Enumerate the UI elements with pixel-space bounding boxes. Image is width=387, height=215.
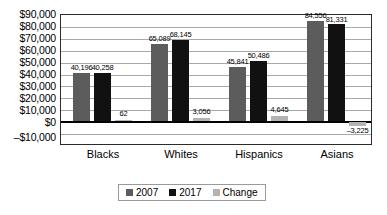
category-label-whites: Whites (146, 148, 216, 161)
y-tick-label: $80,000 (19, 21, 56, 31)
bar-value-label: 50,486 (242, 52, 275, 60)
bar-value-label: 4,645 (263, 106, 296, 114)
legend-item-2007[interactable]: 2007 (126, 187, 158, 198)
bar-hispanics-2007[interactable] (229, 67, 246, 122)
legend-label: 2007 (136, 187, 158, 198)
bar-whites-change[interactable] (193, 118, 210, 122)
legend-label: 2017 (179, 187, 201, 198)
y-tick-label: –$10,000 (14, 132, 56, 142)
bar-group-asians: 84,556 81,331 –3,225 (303, 15, 373, 144)
y-tick-label: $60,000 (19, 45, 56, 55)
legend-item-2017[interactable]: 2017 (169, 187, 201, 198)
y-tick-label: $20,000 (19, 93, 56, 103)
category-label-blacks: Blacks (68, 148, 138, 161)
plot-wrapper: $90,000 $80,000 $70,000 $60,000 $50,000 … (0, 6, 387, 161)
category-label-asians: Asians (302, 148, 372, 161)
legend-label: Change (223, 187, 258, 198)
bar-value-label: 3,056 (185, 108, 218, 116)
y-tick-label: $50,000 (19, 57, 56, 67)
bar-value-label: 68,145 (164, 31, 197, 39)
plot-area: 40,196 40,258 62 65,089 68,145 3,056 (60, 14, 372, 145)
bar-blacks-change[interactable] (115, 120, 132, 121)
y-tick-label: $70,000 (19, 33, 56, 43)
category-label-hispanics: Hispanics (224, 148, 294, 161)
bar-group-blacks: 40,196 40,258 62 (69, 15, 139, 144)
bar-hispanics-change[interactable] (271, 116, 288, 122)
bar-group-hispanics: 45,841 50,486 4,645 (225, 15, 295, 144)
y-tick-label: $90,000 (19, 9, 56, 19)
x-axis-categories: Blacks Whites Hispanics Asians (60, 148, 372, 164)
legend-swatch-icon (126, 189, 133, 196)
legend-swatch-icon (213, 189, 220, 196)
y-tick-label: $30,000 (19, 81, 56, 91)
legend-item-change[interactable]: Change (213, 187, 258, 198)
y-tick-label: $40,000 (19, 69, 56, 79)
bar-value-label: 40,258 (86, 64, 119, 72)
bar-group-whites: 65,089 68,145 3,056 (147, 15, 217, 144)
bar-value-label: 62 (107, 110, 140, 118)
bar-asians-2017[interactable] (328, 24, 345, 121)
y-tick-label: $10,000 (19, 105, 56, 115)
bar-blacks-2007[interactable] (73, 73, 90, 121)
bar-asians-2007[interactable] (307, 21, 324, 122)
grouped-bar-chart: $90,000 $80,000 $70,000 $60,000 $50,000 … (0, 0, 387, 215)
chart-legend: 2007 2017 Change (118, 184, 266, 201)
bars-layer: 40,196 40,258 62 65,089 68,145 3,056 (61, 15, 371, 144)
bar-value-label: –3,225 (341, 127, 374, 135)
y-axis: $90,000 $80,000 $70,000 $60,000 $50,000 … (0, 6, 59, 153)
bar-whites-2007[interactable] (151, 44, 168, 121)
y-tick-label: $0 (45, 117, 56, 127)
bar-value-label: 81,331 (320, 16, 353, 24)
legend-swatch-icon (169, 189, 176, 196)
